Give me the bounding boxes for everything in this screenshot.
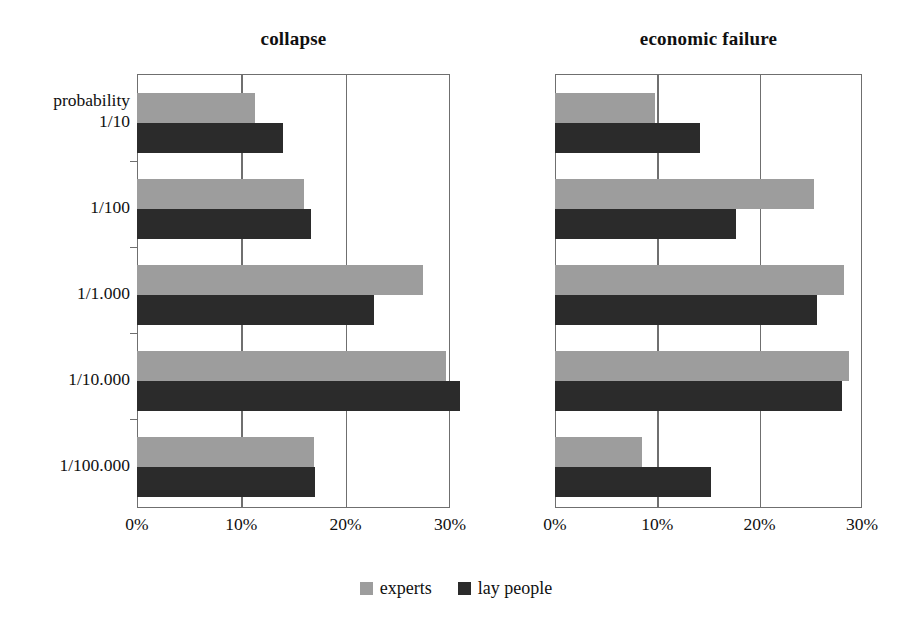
category-label: probability1/10 <box>0 90 130 132</box>
bar-experts <box>137 179 304 209</box>
y-tick-mark <box>130 333 137 334</box>
bar-lay-people <box>555 209 736 239</box>
bar-lay-people <box>137 467 315 497</box>
bar-group <box>137 265 450 325</box>
bar-experts <box>137 437 314 467</box>
legend-swatch-lay-people <box>458 582 471 595</box>
bar-lay-people <box>555 123 700 153</box>
legend-label-lay-people: lay people <box>478 578 552 599</box>
bar-group <box>137 351 450 411</box>
category-label-line2: 1/10.000 <box>0 369 130 390</box>
category-label: 1/1.000 <box>0 283 130 304</box>
panel-title-collapse: collapse <box>137 28 450 50</box>
bar-experts <box>555 437 642 467</box>
panel-title-economic-failure: economic failure <box>555 28 862 50</box>
bar-experts <box>137 351 446 381</box>
bar-lay-people <box>555 381 842 411</box>
category-label-line2: 1/100 <box>0 197 130 218</box>
x-tick-label: 30% <box>846 514 878 535</box>
category-label: 1/10.000 <box>0 369 130 390</box>
y-tick-mark <box>130 419 137 420</box>
category-label: 1/100.000 <box>0 455 130 476</box>
bar-group <box>555 351 862 411</box>
legend-swatch-experts <box>360 582 373 595</box>
bar-lay-people <box>137 123 283 153</box>
y-tick-mark <box>130 247 137 248</box>
chart-legend: experts lay people <box>0 578 912 599</box>
bar-experts <box>555 179 814 209</box>
bar-lay-people <box>137 381 460 411</box>
category-axis: probability1/101/1001/1.0001/10.0001/100… <box>0 74 130 508</box>
bar-group <box>555 265 862 325</box>
plot-area-collapse <box>137 74 450 508</box>
category-label-line1: probability <box>0 90 130 111</box>
bar-experts <box>137 93 255 123</box>
bar-experts <box>555 351 849 381</box>
x-axis-labels-economic-failure: 0%10%20%30% <box>0 514 912 540</box>
legend-entry-lay-people: lay people <box>458 578 552 599</box>
bar-lay-people <box>137 295 374 325</box>
bar-lay-people <box>555 295 817 325</box>
x-tick-label: 20% <box>744 514 776 535</box>
x-tick-label: 0% <box>543 514 566 535</box>
y-tick-mark <box>130 161 137 162</box>
bar-group <box>555 437 862 497</box>
x-tick-label: 10% <box>641 514 673 535</box>
bar-group <box>137 437 450 497</box>
chart-figure: collapse economic failure probability1/1… <box>0 0 912 628</box>
legend-label-experts: experts <box>380 578 432 599</box>
bar-experts <box>555 265 844 295</box>
category-label: 1/100 <box>0 197 130 218</box>
plot-area-economic-failure <box>555 74 862 508</box>
bar-group <box>137 93 450 153</box>
category-label-line2: 1/10 <box>0 111 130 132</box>
bar-experts <box>555 93 655 123</box>
bar-group <box>555 179 862 239</box>
category-label-line2: 1/100.000 <box>0 455 130 476</box>
bar-group <box>555 93 862 153</box>
bar-lay-people <box>137 209 311 239</box>
bar-lay-people <box>555 467 711 497</box>
legend-entry-experts: experts <box>360 578 432 599</box>
bar-experts <box>137 265 423 295</box>
bar-group <box>137 179 450 239</box>
category-label-line2: 1/1.000 <box>0 283 130 304</box>
